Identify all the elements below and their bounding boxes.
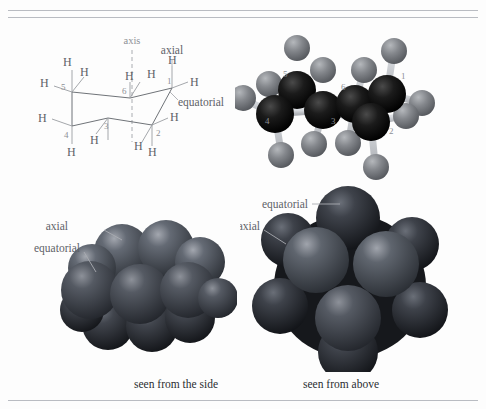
bs-carbon-number-2: 2 <box>389 126 394 136</box>
carbon-number-1: 1 <box>167 76 172 86</box>
equatorial-leader-line <box>170 92 178 100</box>
h-label-c2-axial: H <box>134 139 143 153</box>
space-filling-model-side-view: axial equatorial <box>22 190 237 365</box>
carbon-number-2: 2 <box>156 128 161 138</box>
bond-c5-second-h <box>72 77 84 92</box>
sf-top-axial-label: axial <box>240 220 260 232</box>
h-label-c4-axial: H <box>67 145 76 159</box>
h-label-c6-axial: H <box>147 67 156 81</box>
bottom-rule <box>8 400 478 401</box>
h-label-c5-second: H <box>80 65 89 79</box>
chair-conformation-diagram: axis <box>30 30 230 160</box>
figure-page: axis <box>0 0 486 409</box>
h-label-c1-equatorial: H <box>190 75 199 89</box>
carbon-number-3: 3 <box>104 121 109 131</box>
bond-c1-equatorial-h <box>172 82 188 88</box>
caption-seen-from-above: seen from above <box>303 378 379 390</box>
carbon-number-6: 6 <box>122 86 127 96</box>
ball-and-stick-model: 5 1 6 4 3 2 <box>235 28 480 193</box>
bond-c4-equatorial-h <box>52 119 72 126</box>
equatorial-label: equatorial <box>178 96 224 109</box>
caption-seen-from-side: seen from the side <box>134 378 218 390</box>
h-label-c6-equatorial: H <box>125 69 134 83</box>
bs-carbon-number-4: 4 <box>265 116 270 126</box>
sf-top-equatorial-label: equatorial <box>262 198 308 211</box>
carbon-number-5: 5 <box>61 82 66 92</box>
top-rule-upper <box>8 10 478 11</box>
bond-c6-c1 <box>130 88 172 98</box>
sf-side-equatorial-label: equatorial <box>34 242 80 255</box>
bond-c2-second-h <box>142 125 152 142</box>
space-filling-model-top-view: equatorial axial <box>240 182 465 370</box>
carbon-number-4: 4 <box>64 130 69 140</box>
h-label-c5-equatorial: H <box>40 76 49 90</box>
bs-carbon-number-1: 1 <box>401 71 406 81</box>
bond-c1-c2 <box>152 88 172 125</box>
sf-side-axial-label: axial <box>46 220 68 232</box>
h-label-c4-equatorial: H <box>38 111 47 125</box>
h-label-c1-axial: H <box>168 53 177 67</box>
h-label-c2-equatorial: H <box>170 110 179 124</box>
h-label-c5-axial: H <box>63 55 72 69</box>
bs-carbon-number-6: 6 <box>341 82 346 92</box>
axis-label: axis <box>124 35 141 46</box>
bs-carbon-number-3: 3 <box>331 116 336 126</box>
top-rule-lower <box>8 17 478 18</box>
h-label-c2-second: H <box>148 145 157 159</box>
bs-carbon-number-5: 5 <box>283 69 288 79</box>
h-label-c3-axial: H <box>90 133 99 147</box>
bond-c2-c3 <box>108 118 152 125</box>
